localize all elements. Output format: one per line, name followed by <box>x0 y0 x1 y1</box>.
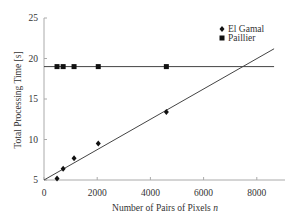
x-axis-label: Number of Pairs of Pixels n <box>112 203 218 213</box>
square-marker-icon <box>220 36 225 41</box>
square-marker-icon <box>72 64 77 69</box>
y-tick-label: 25 <box>29 13 39 23</box>
square-marker-icon <box>55 64 60 69</box>
diamond-marker-icon <box>61 166 66 172</box>
diamond-marker-icon <box>220 26 225 32</box>
y-tick-label: 15 <box>29 94 39 104</box>
x-tick-label: 2000 <box>88 188 107 198</box>
y-axis-label: Total Processing Time [s] <box>13 51 23 148</box>
square-marker-icon <box>96 64 101 69</box>
diamond-marker-icon <box>164 109 169 115</box>
trendlines <box>44 49 274 180</box>
x-tick-label: 0 <box>42 188 47 198</box>
legend-item-paillier: Paillier <box>220 33 257 43</box>
x-tick-label: 8000 <box>247 188 266 198</box>
y-tick-label: 10 <box>29 135 39 145</box>
legend-label: Paillier <box>228 33 256 43</box>
diamond-marker-icon <box>96 141 101 147</box>
y-tick-label: 5 <box>33 175 38 185</box>
legend: El Gamal Paillier <box>220 24 265 43</box>
square-marker-icon <box>61 64 66 69</box>
trendline <box>44 49 274 180</box>
diamond-marker-icon <box>72 155 77 161</box>
square-marker-icon <box>164 64 169 69</box>
chart: 510152025 02000400060008000 Number of Pa… <box>0 0 298 219</box>
y-tick-label: 20 <box>29 54 39 64</box>
x-tick-label: 4000 <box>141 188 160 198</box>
x-tick-label: 6000 <box>194 188 213 198</box>
